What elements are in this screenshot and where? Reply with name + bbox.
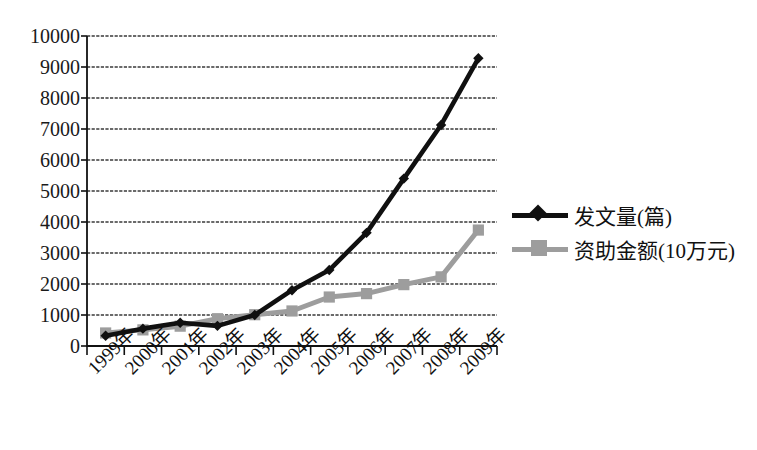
legend-item-1[interactable]: 资助金额(10万元) [512,232,752,266]
square-marker-icon [512,238,568,260]
legend-item-0[interactable]: 发文量(篇) [512,198,752,232]
chart-container: 0100020003000400050006000700080009000100… [0,0,757,450]
chart-legend: 发文量(篇) 资助金额(10万元) [512,198,752,266]
legend-item-label: 发文量(篇) [574,200,672,230]
diamond-marker-icon [512,204,568,226]
legend-item-label: 资助金额(10万元) [574,234,735,264]
